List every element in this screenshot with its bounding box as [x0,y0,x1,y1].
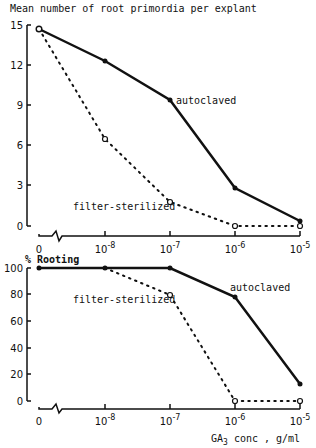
top-series-autoclaved [36,26,302,223]
bottom-ytick-60: 60 [10,316,23,327]
bottom-ytick-100: 100 [4,263,23,274]
top-ytick-3: 3 [17,180,23,191]
bottom-label-filter-sterilized: filter-sterilized [73,294,175,305]
bottom-ytick-20: 20 [10,369,23,380]
bottom-ytick-0: 0 [17,396,23,407]
bottom-chart-title: % Rooting [25,254,79,265]
top-xtick-1e-5: 10-5 [290,241,311,255]
top-xtick-1e-7: 10-7 [160,241,181,255]
bottom-ytick-40: 40 [10,343,23,354]
bottom-xtick-1e-5: 10-5 [290,413,311,427]
top-ytick-6: 6 [17,140,23,151]
bottom-xtick-1e-7: 10-7 [160,413,181,427]
bottom-x-axis: 0 10-8 10-7 10-6 10-5 GA3 conc , g/ml [36,404,311,447]
bottom-xtick-1e-8: 10-8 [95,413,116,427]
top-series-filter-sterilized [39,29,303,229]
bottom-ytick-80: 80 [10,289,23,300]
top-ytick-0: 0 [17,221,23,232]
top-ytick-12: 12 [10,60,23,71]
top-xtick-1e-8: 10-8 [95,241,116,255]
top-xtick-1e-6: 10-6 [225,241,246,255]
top-y-axis: 15 12 9 6 3 0 [10,20,31,232]
bottom-y-axis: 100 80 60 40 20 0 [4,263,31,407]
x-axis-label: GA3 conc , g/ml [211,433,300,447]
bottom-xtick-1e-6: 10-6 [225,413,246,427]
bottom-xtick-0: 0 [36,416,42,427]
bottom-label-autoclaved: autoclaved [230,282,290,293]
figure: Mean number of root primordia per explan… [0,0,316,448]
top-chart-title: Mean number of root primordia per explan… [10,3,257,14]
top-ytick-15: 15 [10,20,23,31]
top-ytick-9: 9 [17,100,23,111]
top-label-filter-sterilized: filter-sterilized [73,201,175,212]
top-x-axis: 0 10-8 10-7 10-6 10-5 [36,231,311,255]
top-label-autoclaved: autoclaved [176,95,236,106]
